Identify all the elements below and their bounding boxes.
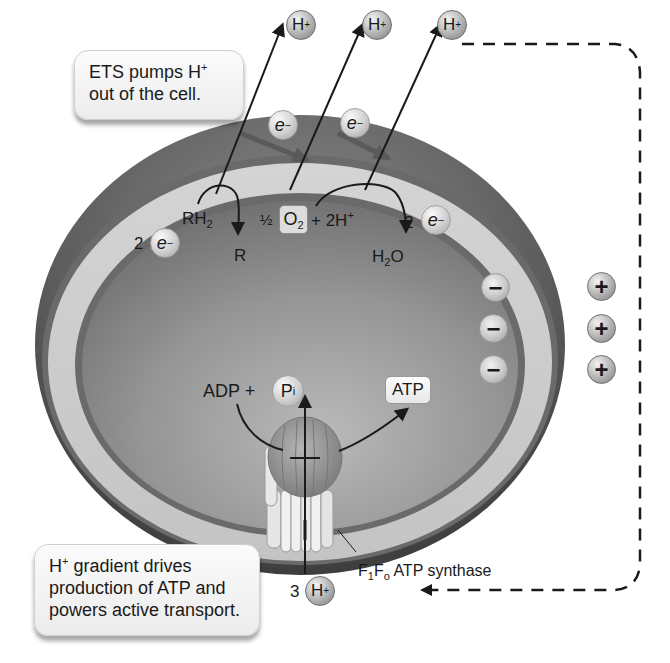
- electron-membrane-1: e−: [268, 110, 298, 140]
- rh2-label: RH2: [182, 210, 213, 227]
- callout-top-line1: ETS pumps H: [89, 62, 201, 82]
- adp-label: ADP +: [203, 382, 255, 400]
- dashed-arrowhead: [420, 584, 432, 596]
- donor-electron-coef: 2: [134, 235, 143, 252]
- callout-top-sup: +: [201, 61, 207, 73]
- plus-2h-label: + 2H+: [311, 212, 354, 229]
- r-label: R: [234, 247, 246, 264]
- positive-charge-3: +: [587, 355, 616, 384]
- atp-box: ATP: [385, 376, 431, 404]
- callout-bottom-line3: powers active transport.: [49, 600, 240, 620]
- acceptor-electron-coef: 2: [404, 214, 413, 231]
- callout-bottom-line2: production of ATP and: [49, 578, 225, 598]
- callout-bottom-h: H: [49, 556, 62, 576]
- oxygen-box: O2: [279, 205, 308, 234]
- positive-charge-1: +: [587, 272, 616, 301]
- callout-top-line2: out of the cell.: [89, 84, 201, 104]
- ets-atp-synthase-diagram: ETS pumps H+ out of the cell. H+ gradien…: [0, 0, 670, 663]
- positive-charge-2: +: [587, 314, 616, 343]
- h2o-label: H2O: [372, 248, 404, 265]
- proton-in-coef: 3: [290, 583, 299, 600]
- proton-in: H+: [305, 576, 335, 606]
- atp-synthase-label: F1Fo ATP synthase: [358, 563, 492, 579]
- callout-bottom-line1: gradient drives: [68, 556, 191, 576]
- negative-charge-3: −: [479, 355, 508, 384]
- proton-out-3: H+: [437, 10, 467, 40]
- negative-charge-2: −: [479, 314, 508, 343]
- callout-gradient-drives: H+ gradient drives production of ATP and…: [34, 544, 260, 636]
- proton-out-2: H+: [362, 10, 392, 40]
- proton-out-1: H+: [286, 10, 316, 40]
- half-coef: ½: [260, 212, 273, 227]
- acceptor-electron: e−: [421, 205, 451, 235]
- pi-ball: Pi: [272, 375, 304, 407]
- electron-membrane-2: e−: [340, 108, 370, 138]
- donor-electron: e−: [150, 228, 180, 258]
- negative-charge-1: −: [481, 273, 510, 302]
- callout-ets-pumps: ETS pumps H+ out of the cell.: [74, 50, 244, 120]
